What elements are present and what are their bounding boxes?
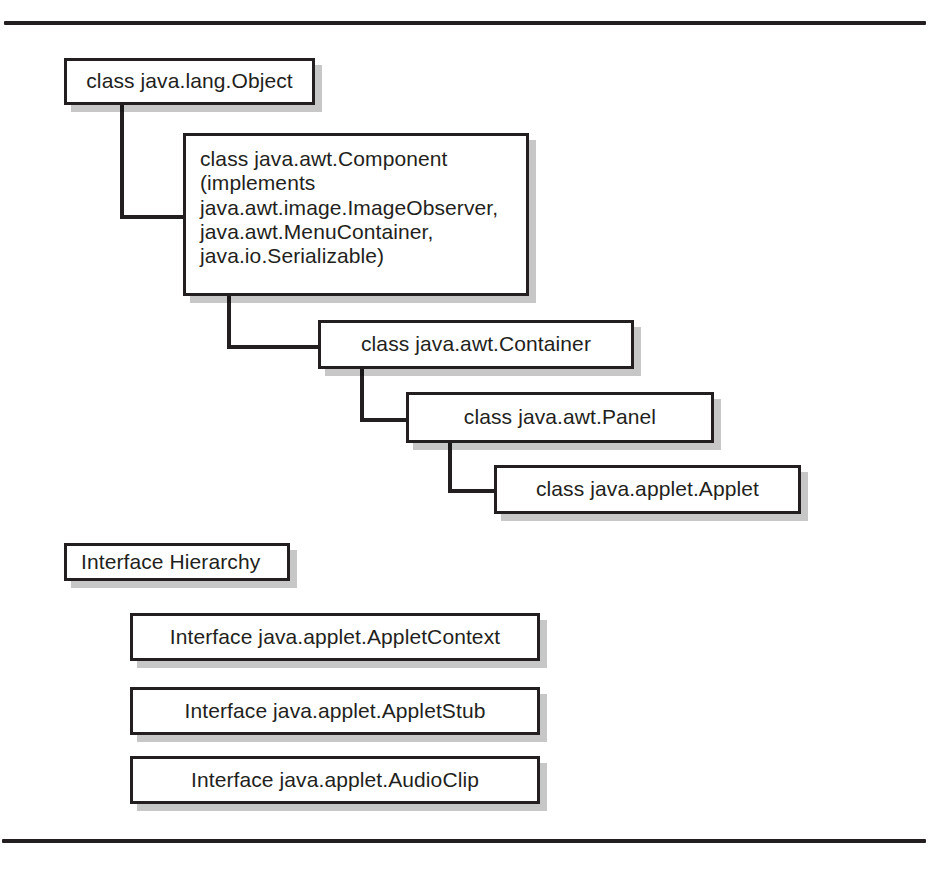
interface-hierarchy-heading: Interface Hierarchy [64,543,290,581]
connector-container-to-panel-horizontal [360,418,408,422]
class-node-java-lang-object[interactable]: class java.lang.Object [64,58,315,105]
diagram-canvas: class java.lang.Object class java.awt.Co… [0,0,933,869]
class-node-java-awt-component[interactable]: class java.awt.Component (implements jav… [183,133,529,296]
interface-hierarchy-heading-label: Interface Hierarchy [81,550,287,574]
interface-node-java-applet-appletcontext[interactable]: Interface java.applet.AppletContext [130,613,540,661]
connector-container-to-panel-vertical [360,369,364,422]
interface-node-label: Interface java.applet.AppletContext [133,625,537,649]
interface-node-label: Interface java.applet.AudioClip [133,768,537,792]
class-node-java-awt-container[interactable]: class java.awt.Container [318,320,634,369]
interface-node-label: Interface java.applet.AppletStub [133,699,537,723]
class-node-java-awt-panel[interactable]: class java.awt.Panel [406,392,714,443]
connector-panel-to-applet-horizontal [448,489,496,493]
interface-node-java-applet-audioclip[interactable]: Interface java.applet.AudioClip [130,756,540,804]
class-node-label: class java.awt.Panel [409,405,711,429]
class-node-label: class java.applet.Applet [497,477,798,501]
interface-node-java-applet-appletstub[interactable]: Interface java.applet.AppletStub [130,687,540,735]
connector-object-to-component-vertical [120,105,124,219]
connector-panel-to-applet-vertical [448,443,452,493]
class-node-label: class java.awt.Container [321,332,631,356]
class-node-java-applet-applet[interactable]: class java.applet.Applet [494,465,801,514]
connector-component-to-container-horizontal [227,345,320,349]
class-node-label: class java.awt.Component (implements jav… [200,147,526,269]
connector-object-to-component-horizontal [120,215,185,219]
bottom-horizontal-rule [2,839,926,843]
connector-component-to-container-vertical [227,296,231,349]
class-node-label: class java.lang.Object [67,69,312,93]
top-horizontal-rule [4,21,926,25]
